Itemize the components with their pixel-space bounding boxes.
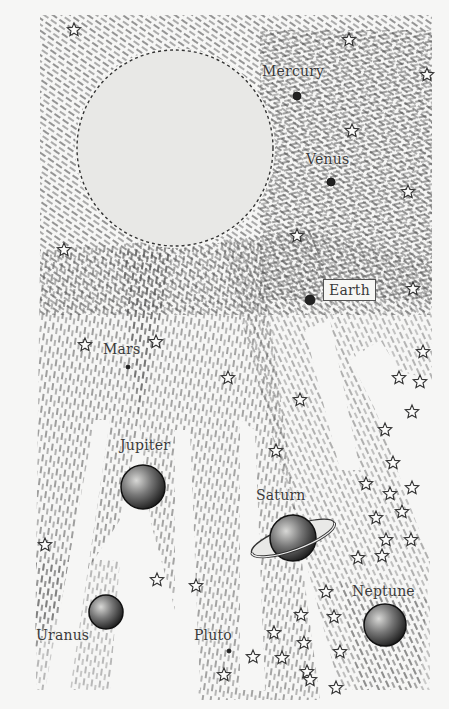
- label-uranus: Uranus: [36, 628, 89, 642]
- planet-uranus: [89, 595, 123, 629]
- label-mercury: Mercury: [262, 64, 324, 78]
- label-venus: Venus: [306, 152, 349, 166]
- label-mars: Mars: [103, 342, 140, 356]
- planet-venus: [327, 178, 335, 186]
- label-jupiter: Jupiter: [120, 438, 170, 452]
- planet-mars: [126, 365, 130, 369]
- label-saturn: Saturn: [256, 488, 306, 502]
- planet-mercury: [293, 92, 301, 100]
- planet-jupiter: [121, 465, 165, 509]
- label-pluto: Pluto: [194, 628, 232, 642]
- planet-earth: [305, 295, 315, 305]
- solar-system-illustration: [0, 0, 449, 709]
- star-icon: [150, 573, 163, 586]
- planet-pluto: [227, 649, 231, 653]
- planet-neptune: [364, 604, 406, 646]
- label-neptune: Neptune: [352, 584, 415, 598]
- label-earth: Earth: [323, 279, 376, 301]
